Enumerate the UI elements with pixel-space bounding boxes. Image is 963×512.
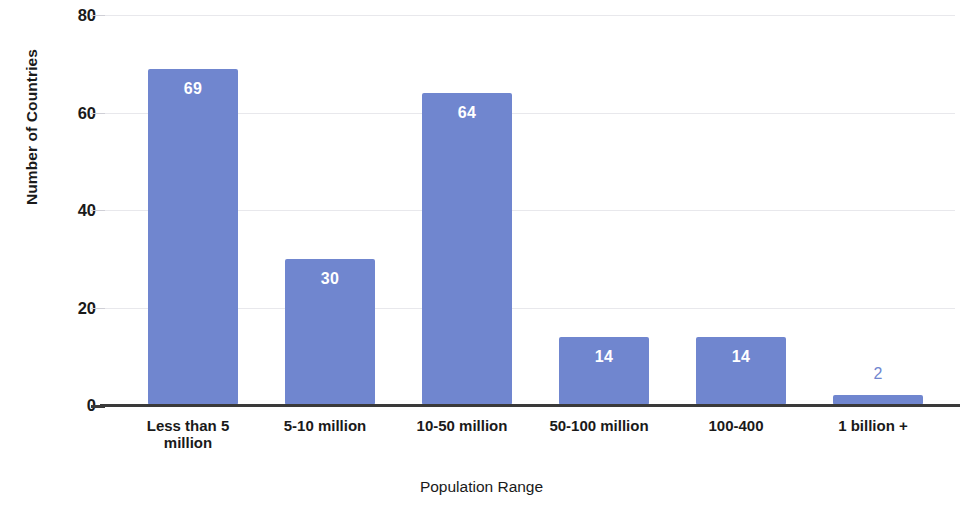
y-tick-label-80: 80 (34, 7, 96, 24)
bar-group-less-than-5-million[interactable]: 69 (148, 15, 238, 405)
bar-value-less-than-5-million: 69 (148, 80, 238, 98)
bar-less-than-5-million[interactable] (148, 69, 238, 405)
y-tick-dash-40 (91, 210, 105, 211)
x-tick-label-1-billion-plus: 1 billion + (788, 417, 958, 434)
y-tick-dash-60 (91, 113, 105, 114)
bar-value-10-50-million: 64 (422, 104, 512, 122)
bar-value-1-billion-plus: 2 (833, 365, 923, 383)
bar-10-50-million[interactable] (422, 93, 512, 405)
bar-chart: Number of Countries 80 60 40 20 0 69 30 (0, 0, 963, 512)
x-tick-line-2: million (103, 434, 273, 451)
bar-value-50-100-million: 14 (559, 348, 649, 366)
y-tick-dash-20 (91, 308, 105, 309)
plot-area: 69 30 64 14 14 2 (105, 15, 955, 405)
x-axis-title: Population Range (0, 478, 963, 496)
y-tick-label-40: 40 (34, 202, 96, 219)
bar-value-100-400: 14 (696, 348, 786, 366)
y-tick-label-60: 60 (34, 105, 96, 122)
y-axis-ticks: 80 60 40 20 0 (0, 0, 96, 512)
x-axis-line (100, 404, 960, 407)
y-tick-label-20: 20 (34, 300, 96, 317)
bar-group-1-billion-plus[interactable]: 2 (833, 15, 923, 405)
bar-group-10-50-million[interactable]: 64 (422, 15, 512, 405)
y-tick-dash-80 (91, 15, 105, 16)
bar-group-50-100-million[interactable]: 14 (559, 15, 649, 405)
bar-group-100-400[interactable]: 14 (696, 15, 786, 405)
bar-value-5-10-million: 30 (285, 270, 375, 288)
y-tick-label-0: 0 (34, 397, 96, 414)
bar-group-5-10-million[interactable]: 30 (285, 15, 375, 405)
